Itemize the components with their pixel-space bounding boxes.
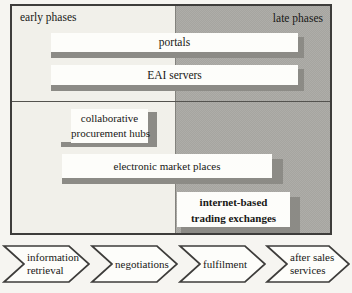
label-box-portals: portals [51,33,298,52]
shadow-eai-servers [298,69,304,85]
process-arrow-fulfilment: fulfilment [179,245,266,283]
process-arrow-label: information retrieval [3,245,90,283]
process-arrow-negotiations: negotiations [91,245,178,283]
shadow-portals [298,37,304,52]
label-box-collaborative-procurement-hubs: collaborative procurement hubs [71,109,148,143]
shadow-internet-based-trading-exchanges [290,197,300,227]
section-divider [12,101,330,102]
process-arrow-after-sales-services: after sales services [266,245,350,283]
row-label: procurement hubs [71,126,148,141]
process-arrow-label: after sales services [266,245,350,283]
label-box-electronic-market-places: electronic market places [62,154,272,178]
row-label: trading exchanges [177,211,290,227]
row-label: electronic market places [62,154,272,178]
row-label: portals [51,33,298,52]
shadow-bottom-internet-based-trading-exchanges [181,227,300,233]
figure-canvas: early phases late phases portals EAI ser… [0,0,352,293]
row-label: collaborative [71,111,148,126]
process-arrow-information-retrieval: information retrieval [3,245,90,283]
timeline-bar-eai-servers [51,85,304,91]
shadow-electronic-market-places [272,159,283,178]
early-phases-label: early phases [20,11,77,23]
timeline-bar-electronic-market-places [62,178,283,184]
row-label: internet-based [177,195,290,211]
process-arrow-label: fulfilment [179,245,266,283]
process-arrow-label: negotiations [91,245,178,283]
late-phases-label: late phases [175,12,323,24]
label-box-eai-servers: EAI servers [51,65,298,85]
label-box-internet-based-trading-exchanges: internet-based trading exchanges [177,192,290,227]
row-label: EAI servers [51,65,298,85]
timeline-bar-portals [51,52,304,58]
